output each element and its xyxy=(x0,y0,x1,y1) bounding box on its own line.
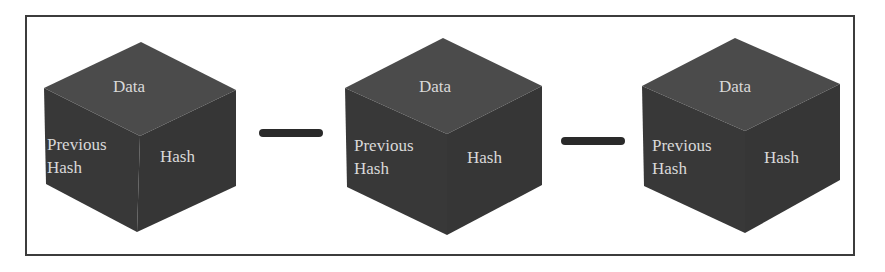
block-previous-hash-label-line2: Hash xyxy=(354,159,389,178)
block-2: Data Previous Hash Hash xyxy=(345,38,542,235)
block-hash-label: Hash xyxy=(764,148,799,167)
block-hash-label: Hash xyxy=(467,148,502,167)
block-previous-hash-label: Previous xyxy=(354,136,414,155)
block-data-label: Data xyxy=(113,77,146,96)
block-previous-hash-label-line2: Hash xyxy=(47,158,82,177)
blockchain-diagram: Data Previous Hash Hash Data Previous Ha… xyxy=(0,0,885,272)
block-1: Data Previous Hash Hash xyxy=(44,42,236,232)
block-3: Data Previous Hash Hash xyxy=(642,38,840,233)
block-data-label: Data xyxy=(719,77,752,96)
block-previous-hash-label: Previous xyxy=(47,135,107,154)
block-data-label: Data xyxy=(419,77,452,96)
block-previous-hash-label-line2: Hash xyxy=(652,159,687,178)
block-previous-hash-label: Previous xyxy=(652,136,712,155)
block-hash-label: Hash xyxy=(160,147,195,166)
